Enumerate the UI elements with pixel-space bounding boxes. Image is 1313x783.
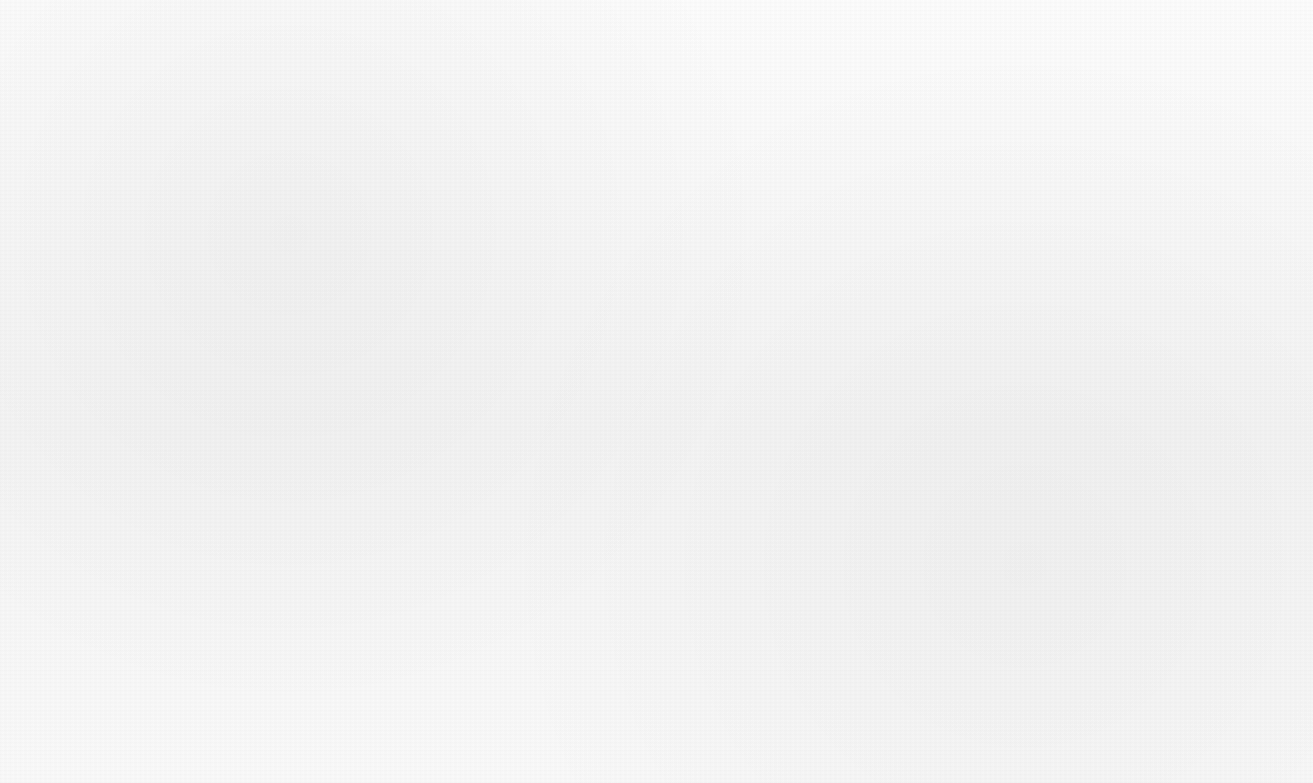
bar-chart-plot-area: Percent Using in Past Month 9 8 7 6 5 4 …	[47, 30, 1260, 744]
y-axis-label-4: 4	[328, 317, 368, 341]
category-line-1: Nonmetropolitan	[679, 409, 701, 548]
category-line-1: Large	[410, 443, 432, 548]
y-axis-label-0: 0	[328, 509, 368, 533]
category-line-2: Metropolitan	[566, 443, 588, 548]
x-axis-category-small-metropolitan: Small Metropolitan	[544, 443, 588, 548]
x-axis-category-nonmetropolitan-less-urbanized: Nonmetropolitan Less Urbanized	[813, 409, 857, 548]
y-axis-label-6: 6	[328, 220, 368, 244]
y-axis-label-8: 8	[328, 124, 368, 148]
bar-value-large-metropolitan: 8.5	[384, 78, 460, 103]
category-line-1: Nonmetropolitan	[947, 402, 969, 548]
chart-card: Percent Using in Past Month 9 8 7 6 5 4 …	[45, 28, 1258, 742]
x-axis-category-nonmetropolitan-completely-rural: Nonmetropolitan Completely Rural	[947, 402, 991, 548]
y-axis-label-2: 2	[328, 413, 368, 437]
y-axis-label-9: 9	[328, 76, 368, 100]
bar-value-nonmetropolitan-urbanized: 7.2	[653, 141, 729, 166]
category-line-2: Less Urbanized	[835, 409, 857, 548]
category-line-1: Nonmetropolitan	[813, 409, 835, 548]
category-line-1: Small	[544, 443, 566, 548]
x-axis-category-large-metropolitan: Large Metropolitan	[410, 443, 454, 548]
bar-value-nonmetropolitan-completely-rural: 6.1	[921, 194, 997, 219]
y-axis-label-1: 1	[328, 461, 368, 485]
category-line-2: Completely Rural	[969, 402, 991, 548]
category-line-2: Metropolitan	[432, 443, 454, 548]
y-axis-label-3: 3	[328, 365, 368, 389]
header-black-band	[47, 0, 1255, 18]
bar-value-small-metropolitan: 8.1	[518, 97, 594, 122]
bar-value-nonmetropolitan-less-urbanized: 5.6	[787, 218, 863, 243]
category-line-2: Urbanized	[701, 409, 723, 548]
y-axis-label-7: 7	[328, 172, 368, 196]
x-axis-category-nonmetropolitan-urbanized: Nonmetropolitan Urbanized	[679, 409, 723, 548]
y-axis-label-5: 5	[328, 269, 368, 293]
